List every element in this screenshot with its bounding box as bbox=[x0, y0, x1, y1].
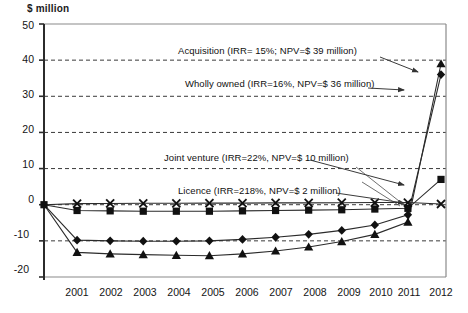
plot-area bbox=[0, 0, 468, 313]
series-lines bbox=[44, 64, 441, 256]
plot-frame bbox=[44, 24, 446, 280]
chart-container: $ million 50 40 30 20 10 0 -10 -20 2001 … bbox=[0, 0, 468, 313]
annotation-leader-lines bbox=[310, 57, 418, 206]
